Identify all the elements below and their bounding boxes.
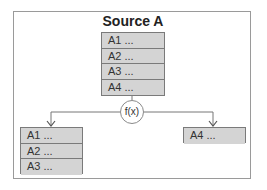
source-row: A4 ...	[102, 80, 164, 96]
left-output-table: A1 ... A2 ... A3 ...	[20, 127, 83, 174]
source-row: A2 ...	[102, 49, 164, 65]
left-output-row: A3 ...	[21, 159, 82, 175]
right-output-table: A4 ...	[183, 127, 246, 143]
left-output-row: A1 ...	[21, 128, 82, 144]
left-output-row: A2 ...	[21, 144, 82, 160]
source-title: Source A	[101, 13, 165, 29]
source-row: A3 ...	[102, 64, 164, 80]
source-row: A1 ...	[102, 33, 164, 49]
source-table: A1 ... A2 ... A3 ... A4 ...	[101, 32, 165, 96]
right-output-row: A4 ...	[184, 128, 245, 144]
function-node: f(x)	[120, 100, 144, 124]
